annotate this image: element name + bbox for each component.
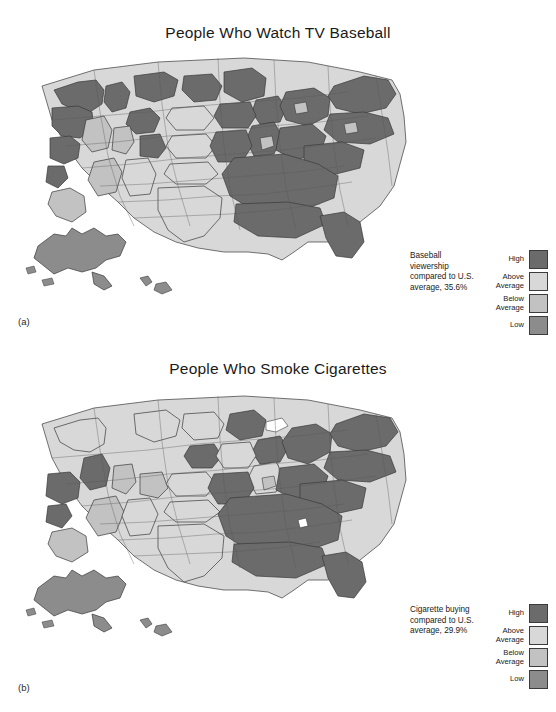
region-pocket-belowavg-2 bbox=[294, 102, 308, 114]
legend-item-above-average: Above Average bbox=[482, 272, 548, 291]
legend-item-low: Low bbox=[482, 316, 548, 335]
legend-label: Above Average bbox=[482, 273, 524, 290]
legend-swatch-low bbox=[529, 316, 548, 335]
region-kansas-avg bbox=[166, 134, 216, 158]
legend-label: Above Average bbox=[482, 627, 524, 644]
legend-label: High bbox=[482, 609, 524, 618]
legend-cigarettes: Cigarette buying compared to U.S. averag… bbox=[410, 604, 548, 692]
legend-item-high: High bbox=[482, 604, 548, 623]
legend-baseball: Baseball viewership compared to U.S. ave… bbox=[410, 250, 548, 338]
region-nebraska-avg bbox=[166, 106, 214, 130]
legend-caption: Cigarette buying compared to U.S. averag… bbox=[410, 604, 476, 637]
legend-swatch-below-average bbox=[529, 294, 548, 313]
region-newmexico-avg bbox=[122, 158, 156, 196]
legend-swatch-above-average bbox=[529, 626, 548, 645]
region-pocket-belowavg-3 bbox=[344, 122, 358, 134]
choropleth-map-cigarettes[interactable] bbox=[8, 382, 428, 664]
legend-label: High bbox=[482, 255, 524, 264]
legend-item-below-average: Below Average bbox=[482, 294, 548, 313]
region-north-cal-high bbox=[46, 472, 80, 504]
panel-label-a: (a) bbox=[18, 316, 30, 327]
legend-swatch-low bbox=[529, 670, 548, 689]
region-bay-area-high bbox=[46, 166, 68, 188]
page-title-b: People Who Smoke Cigarettes bbox=[0, 360, 556, 378]
legend-swatch-high bbox=[529, 250, 548, 269]
choropleth-map-baseball[interactable] bbox=[8, 46, 428, 318]
region-cal-central-high bbox=[46, 504, 72, 528]
region-hawaii bbox=[140, 618, 172, 636]
legend-label: Below Average bbox=[482, 649, 524, 666]
legend-keys: High Above Average Below Average Low bbox=[482, 604, 548, 692]
region-north-cal-high bbox=[50, 136, 80, 164]
legend-label: Below Average bbox=[482, 295, 524, 312]
us-map-svg-b bbox=[8, 382, 428, 664]
legend-caption: Baseball viewership compared to U.S. ave… bbox=[410, 250, 476, 293]
legend-item-high: High bbox=[482, 250, 548, 269]
us-map-svg-a bbox=[8, 46, 428, 318]
legend-swatch-below-average bbox=[529, 648, 548, 667]
legend-keys: High Above Average Below Average Low bbox=[482, 250, 548, 338]
region-kansas-avg bbox=[166, 472, 216, 496]
page-title-a: People Who Watch TV Baseball bbox=[0, 24, 556, 42]
panel-label-b: (b) bbox=[18, 682, 30, 693]
legend-item-below-average: Below Average bbox=[482, 648, 548, 667]
legend-item-above-average: Above Average bbox=[482, 626, 548, 645]
legend-swatch-above-average bbox=[529, 272, 548, 291]
legend-label: Low bbox=[482, 675, 524, 684]
map-panel-a: People Who Watch TV Baseball bbox=[0, 0, 556, 352]
region-hawaii bbox=[140, 276, 172, 294]
legend-swatch-high bbox=[529, 604, 548, 623]
legend-label: Low bbox=[482, 321, 524, 330]
region-socal-belowavg bbox=[48, 528, 88, 562]
region-socal-belowavg bbox=[48, 188, 86, 222]
legend-item-low: Low bbox=[482, 670, 548, 689]
